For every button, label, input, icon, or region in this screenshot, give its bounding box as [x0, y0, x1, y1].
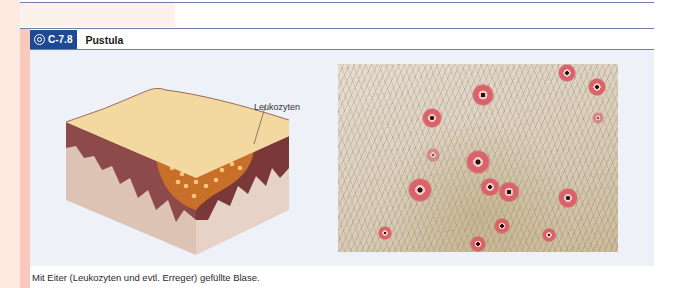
leukozyten-label: Leukozyten — [254, 102, 300, 112]
page-margin — [0, 0, 20, 288]
top-tint — [20, 3, 175, 27]
divider-top — [20, 2, 654, 3]
target-circle-icon — [34, 34, 45, 45]
divider-header-top — [20, 28, 654, 29]
figure-caption: Mit Eiter (Leukozyten und evtl. Erreger)… — [32, 272, 260, 283]
figure-header: C-7.8 Pustula — [30, 30, 654, 49]
figure-id: C-7.8 — [48, 34, 72, 45]
figure-panel: Leukozyten — [30, 50, 654, 266]
figure-title: Pustula — [85, 34, 123, 46]
pustule-photo — [338, 64, 618, 252]
figure-badge: C-7.8 — [30, 30, 77, 49]
figure-side-bar — [20, 29, 30, 288]
skin-cross-section-illustration — [44, 60, 314, 260]
